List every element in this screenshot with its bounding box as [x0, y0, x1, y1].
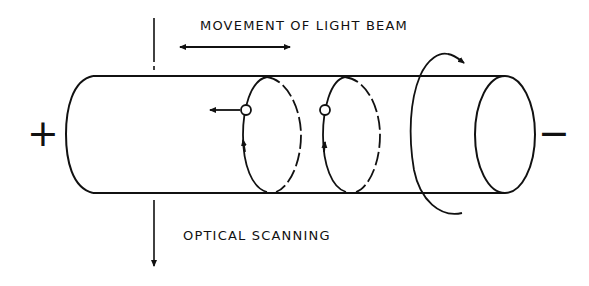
- optical-scanning-diagram: [0, 0, 589, 286]
- scan-ring-2: [323, 77, 380, 192]
- optical-scanning-label: OPTICAL SCANNING: [183, 228, 331, 243]
- rotation-arrow: [411, 54, 464, 214]
- cylinder: [66, 76, 535, 193]
- movement-label: MOVEMENT OF LIGHT BEAM: [200, 18, 408, 33]
- cylinder-end-cap: [475, 76, 535, 193]
- positive-sign: +: [27, 114, 59, 152]
- light-beam-marker-1: [241, 105, 251, 115]
- light-beam-marker-2: [320, 105, 330, 115]
- negative-sign: −: [538, 114, 570, 152]
- scan-ring-1: [243, 77, 301, 192]
